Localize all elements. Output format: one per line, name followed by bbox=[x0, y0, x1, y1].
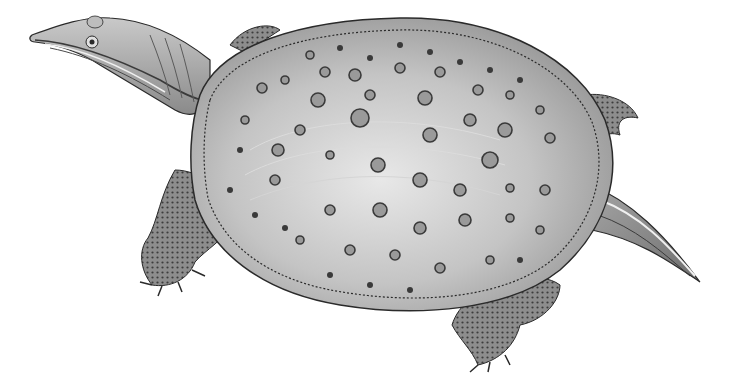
shell-spot bbox=[459, 214, 471, 226]
shell-spot bbox=[257, 83, 267, 93]
shell-spot bbox=[295, 125, 305, 135]
shell-spot bbox=[345, 245, 355, 255]
shell-spot bbox=[367, 282, 373, 288]
shell-spot bbox=[282, 225, 288, 231]
shell-spot bbox=[311, 93, 325, 107]
shell-spot bbox=[536, 106, 544, 114]
shell-spot bbox=[413, 173, 427, 187]
shell-spot bbox=[395, 63, 405, 73]
shell-spot bbox=[464, 114, 476, 126]
shell-spot bbox=[506, 214, 514, 222]
shell-spot bbox=[482, 152, 498, 168]
shell-spot bbox=[390, 250, 400, 260]
shell-spot bbox=[373, 203, 387, 217]
shell-spot bbox=[498, 123, 512, 137]
shell-spot bbox=[272, 144, 284, 156]
shell-spot bbox=[435, 263, 445, 273]
shell-spot bbox=[506, 184, 514, 192]
shell-spot bbox=[351, 109, 369, 127]
shell-spot bbox=[296, 236, 304, 244]
shell-spot bbox=[281, 76, 289, 84]
shell-spot bbox=[365, 90, 375, 100]
shell-spot bbox=[349, 69, 361, 81]
shell-spot bbox=[423, 128, 437, 142]
shell-spot bbox=[540, 185, 550, 195]
shell-spot bbox=[371, 158, 385, 172]
turtle-illustration bbox=[0, 0, 736, 388]
shell-spot bbox=[486, 256, 494, 264]
shell-spot bbox=[306, 51, 314, 59]
shell-spot bbox=[227, 187, 233, 193]
head-and-neck bbox=[30, 16, 210, 114]
shell-spot bbox=[270, 175, 280, 185]
shell-spot bbox=[241, 116, 249, 124]
shell-spot bbox=[517, 257, 523, 263]
shell-spot bbox=[397, 42, 403, 48]
shell-spot bbox=[435, 67, 445, 77]
shell-spot bbox=[427, 49, 433, 55]
shell-spot bbox=[320, 67, 330, 77]
shell-spot bbox=[457, 59, 463, 65]
shell-spot bbox=[418, 91, 432, 105]
shell-spot bbox=[325, 205, 335, 215]
shell-spot bbox=[473, 85, 483, 95]
shell-spot bbox=[337, 45, 343, 51]
shell-spot bbox=[517, 77, 523, 83]
shell-spot bbox=[454, 184, 466, 196]
shell-spot bbox=[414, 222, 426, 234]
shell-spot bbox=[327, 272, 333, 278]
shell-spot bbox=[536, 226, 544, 234]
shell-spot bbox=[252, 212, 258, 218]
shell-spot bbox=[487, 67, 493, 73]
shell-spot bbox=[545, 133, 555, 143]
shell-spot bbox=[367, 55, 373, 61]
carapace bbox=[191, 18, 613, 311]
shell-spot bbox=[237, 147, 243, 153]
shell-spot bbox=[407, 287, 413, 293]
shell-spot bbox=[506, 91, 514, 99]
shell-spot bbox=[326, 151, 334, 159]
